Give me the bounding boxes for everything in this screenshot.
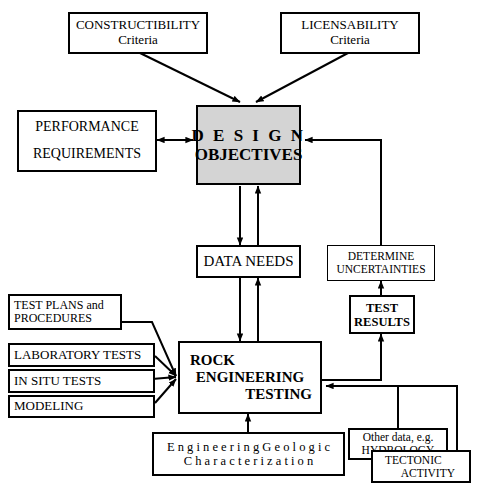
node-test-plans-procedures[interactable]: TEST PLANS and PROCEDURES [8,294,122,330]
tectonic-line1: TECTONIC [373,454,442,467]
determine-uncertainties-line2: UNCERTAINTIES [336,263,425,276]
test-plans-line2: PROCEDURES [14,312,92,325]
modeling-line1: MODELING [14,399,83,414]
geologic-line2: C h a r a c t e r i z a t i o n [184,454,313,468]
test-plans-line1: TEST PLANS and [14,299,104,312]
node-determine-uncertainties[interactable]: DETERMINE UNCERTAINTIES [327,245,435,281]
node-modeling[interactable]: MODELING [8,395,155,418]
node-rock-engineering-testing[interactable]: ROCK ENGINEERING TESTING [178,341,322,414]
design-objectives-line2: OBJECTIVES [195,145,303,164]
node-engineering-geologic-characterization[interactable]: E n g i n e e r i n g G e o l o g i c C … [152,432,345,476]
in-situ-tests-line1: IN SITU TESTS [14,374,101,389]
performance-line1: PERFORMANCE [35,114,138,141]
licensability-line1: LICENSABILITY [301,18,399,33]
edge-laboratory-to-rock [155,356,176,376]
licensability-line2: Criteria [330,33,370,48]
rock-line3: TESTING [245,386,320,403]
node-in-situ-tests[interactable]: IN SITU TESTS [8,369,155,393]
edge-uncertainties-to-design [305,140,381,245]
determine-uncertainties-line1: DETERMINE [348,250,414,263]
edge-in-situ-to-rock [152,377,176,379]
constructibility-line1: CONSTRUCTIBILITY [76,18,200,33]
flowchart-canvas: CONSTRUCTIBILITY Criteria LICENSABILITY … [0,0,483,488]
edge-modeling-to-rock [155,379,176,403]
other-data-line1: Other data, e.g. [363,431,434,444]
node-laboratory-tests[interactable]: LABORATORY TESTS [8,343,155,367]
test-results-line1: TEST [366,301,398,315]
node-tectonic-activity[interactable]: TECTONIC ACTIVITY [371,450,471,483]
node-licensability[interactable]: LICENSABILITY Criteria [280,12,420,54]
node-data-needs[interactable]: DATA NEEDS [196,245,301,278]
edge-rock-to-test-results [322,334,381,380]
rock-line2: ENGINEERING [196,369,304,386]
geologic-line1: E n g i n e e r i n g G e o l o g i c [167,440,330,454]
performance-line2: REQUIREMENTS [33,141,141,168]
node-test-results[interactable]: TEST RESULTS [349,295,415,334]
tectonic-line2: ACTIVITY [401,467,469,480]
node-performance-requirements[interactable]: PERFORMANCE REQUIREMENTS [17,110,157,172]
rock-line1: ROCK [180,352,235,369]
edge-licensability-to-design [256,53,348,102]
edge-constructibility-to-design [140,53,240,102]
node-constructibility[interactable]: CONSTRUCTIBILITY Criteria [68,12,208,54]
constructibility-line2: Criteria [118,33,158,48]
test-results-line2: RESULTS [354,315,410,329]
node-design-objectives[interactable]: D E S I G N OBJECTIVES [196,105,301,185]
laboratory-tests-line1: LABORATORY TESTS [14,348,141,363]
data-needs-line1: DATA NEEDS [203,253,293,270]
design-objectives-line1: D E S I G N [192,126,306,145]
